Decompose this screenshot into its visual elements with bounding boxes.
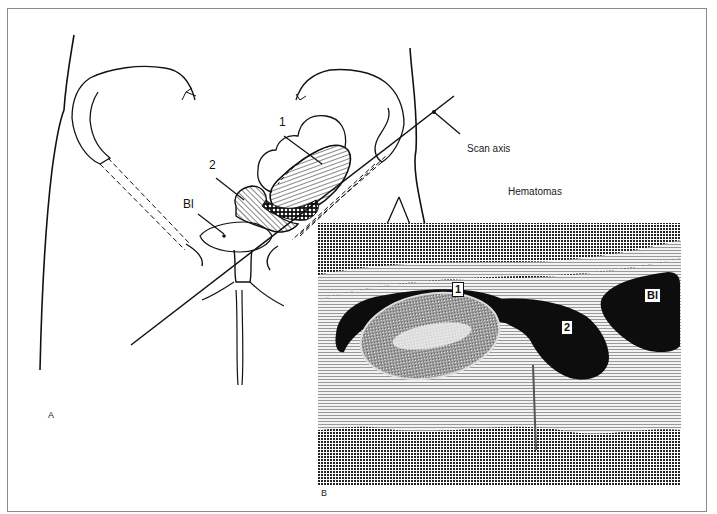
panel-b-letter: B (321, 488, 327, 498)
label-hematoma-2-b: 2 (561, 320, 573, 335)
label-hematoma-1-a: 1 (279, 115, 286, 129)
label-bladder-b: Bl (644, 288, 661, 303)
panel-b-ultrasound (0, 0, 717, 514)
label-scan-axis: Scan axis (467, 143, 510, 154)
label-hematoma-2-a: 2 (209, 158, 216, 172)
label-bladder-a: Bl (183, 197, 194, 211)
label-hematomas: Hematomas (508, 186, 562, 197)
label-hematoma-1-b: 1 (452, 282, 464, 297)
panel-a-letter: A (48, 410, 54, 420)
